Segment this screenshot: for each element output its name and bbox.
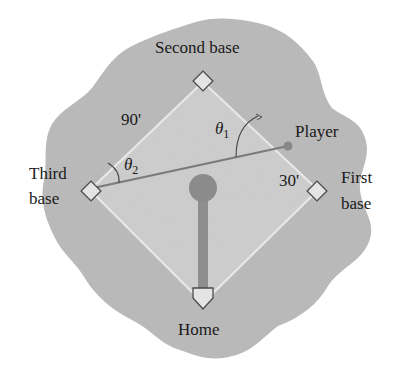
third-base-label-line2: base xyxy=(29,189,59,208)
side-length-label: 90' xyxy=(121,110,141,129)
theta2-label: θ2 xyxy=(124,155,138,180)
first-base-label-line1: First xyxy=(341,168,372,187)
first-base-label-line2: base xyxy=(341,194,371,213)
home-label: Home xyxy=(178,320,220,339)
second-base-label: Second base xyxy=(155,38,240,57)
theta1-subscript: 1 xyxy=(223,127,229,141)
player-distance-label: 30' xyxy=(279,171,299,190)
pitchers-mound xyxy=(189,174,217,202)
third-base-label-line1: Third xyxy=(29,164,67,183)
theta1-label: θ1 xyxy=(215,119,229,144)
theta2-subscript: 2 xyxy=(132,163,138,177)
player-label: Player xyxy=(295,122,338,141)
player-dot xyxy=(284,142,293,151)
home-path xyxy=(198,192,208,292)
